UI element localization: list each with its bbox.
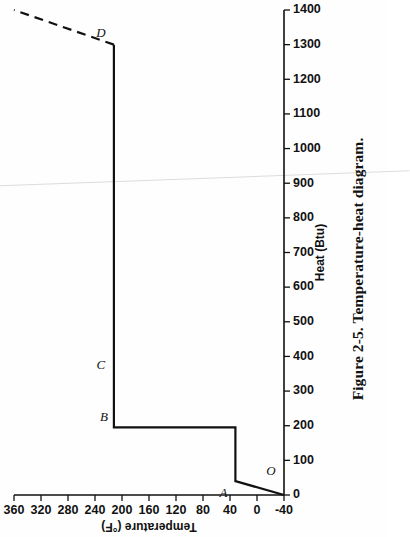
y-tick-label: 40: [223, 503, 237, 517]
x-tick-label: 1400: [293, 2, 321, 16]
x-axis-title: Heat (Btu): [313, 224, 327, 281]
x-tick-label: 700: [293, 245, 314, 259]
y-tick-label: 0: [254, 503, 261, 517]
x-tick-label: 1000: [293, 141, 321, 155]
point-label-A: A: [218, 485, 227, 500]
y-axis-title: Temperature (°F): [101, 520, 196, 534]
x-tick-label: 400: [293, 349, 314, 363]
y-tick-label: 200: [112, 503, 133, 517]
x-tick-label: 1200: [293, 72, 321, 86]
figure-rotated-container: 0100200300400500600700800900100011001200…: [0, 0, 340, 537]
point-label-C: C: [97, 357, 106, 372]
y-tick-label: 280: [58, 503, 79, 517]
x-tick-label: 1300: [293, 37, 321, 51]
x-tick-label: 200: [293, 418, 314, 432]
y-tick-label: 240: [85, 503, 106, 517]
y-tick-label: -40: [275, 503, 293, 517]
y-tick-label: 160: [139, 503, 160, 517]
series-solid-process-path: [114, 45, 284, 495]
figure-caption: Figure 2-5. Temperature-heat diagram.: [336, 0, 380, 537]
x-tick-label: 600: [293, 279, 314, 293]
temperature-heat-chart: 0100200300400500600700800900100011001200…: [0, 0, 340, 537]
x-tick-label: 100: [293, 453, 314, 467]
point-label-B: B: [100, 409, 108, 424]
x-tick-label: 1100: [293, 106, 320, 120]
x-tick-label: 800: [293, 210, 314, 224]
y-tick-label: 360: [4, 503, 25, 517]
y-tick-label: 320: [31, 503, 52, 517]
x-tick-label: 0: [293, 487, 300, 501]
figure-caption-text: Figure 2-5. Temperature-heat diagram.: [349, 137, 367, 400]
x-tick-label: 900: [293, 176, 314, 190]
x-tick-label: 500: [293, 314, 314, 328]
x-tick-label: 300: [293, 383, 314, 397]
plot-area: 0100200300400500600700800900100011001200…: [0, 0, 340, 537]
point-label-O: O: [266, 463, 276, 478]
y-tick-label: 120: [166, 503, 187, 517]
y-tick-label: 80: [196, 503, 210, 517]
point-label-D: D: [95, 25, 106, 40]
